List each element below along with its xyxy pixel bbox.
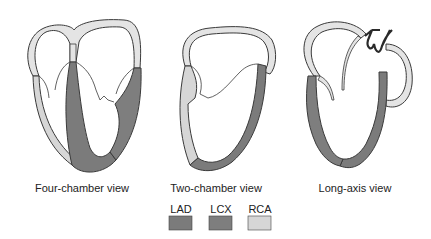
two-chamber-lad-segment xyxy=(190,64,266,171)
four-chamber-lad-segment xyxy=(66,62,116,172)
four-chamber-heart xyxy=(28,20,141,172)
four-chamber-tricuspid-leaflets xyxy=(39,62,70,98)
legend: LAD LCX RCA xyxy=(169,203,272,230)
long-axis-aorta-wall xyxy=(386,44,412,107)
two-chamber-mitral-leaflets xyxy=(191,64,258,98)
legend-swatch-lad xyxy=(169,216,192,230)
legend-item-lcx: LCX xyxy=(209,203,232,230)
long-axis-lad-segment xyxy=(340,72,387,168)
view-label-two-chamber: Two-chamber view xyxy=(170,182,262,194)
long-axis-leaflet-posterior xyxy=(342,36,361,90)
legend-label-lad: LAD xyxy=(170,203,191,215)
four-chamber-atria-wall xyxy=(28,20,141,76)
long-axis-leaflet-anterior xyxy=(318,76,334,100)
coronary-territory-diagram: Four-chamber view Two-chamber view Long-… xyxy=(0,0,431,239)
long-axis-heart xyxy=(304,22,412,168)
two-chamber-heart xyxy=(180,27,276,171)
legend-item-rca: RCA xyxy=(248,203,272,230)
legend-label-lcx: LCX xyxy=(210,203,232,215)
two-chamber-rca-segment xyxy=(180,66,198,165)
four-chamber-lcx-segment xyxy=(110,68,141,160)
legend-item-lad: LAD xyxy=(169,203,192,230)
legend-swatch-rca xyxy=(248,216,271,230)
long-axis-atrium-wall xyxy=(304,22,366,76)
legend-swatch-lcx xyxy=(209,216,232,230)
four-chamber-atrial-septum xyxy=(70,44,76,62)
view-label-four-chamber: Four-chamber view xyxy=(35,182,129,194)
view-label-long-axis: Long-axis view xyxy=(319,182,392,194)
legend-label-rca: RCA xyxy=(248,203,272,215)
long-axis-lcx-segment xyxy=(307,76,343,166)
